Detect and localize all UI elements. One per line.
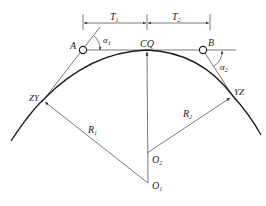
label-alpha2: α2	[220, 62, 228, 73]
angle-alpha1-arc	[94, 36, 100, 50]
radius-r2	[147, 98, 230, 153]
label-a: A	[69, 40, 77, 51]
label-o2: O2	[152, 154, 162, 166]
radius-r1	[45, 102, 148, 183]
label-t1: T1	[110, 11, 119, 23]
label-t2: T2	[172, 11, 181, 23]
label-r1: R1	[87, 124, 97, 136]
label-o1: O1	[152, 180, 162, 192]
label-alpha1: α1	[103, 35, 111, 46]
label-zy: ZY	[29, 93, 40, 103]
point-b-marker	[199, 46, 206, 53]
label-cq: CQ	[140, 38, 155, 49]
point-a-marker	[79, 46, 86, 53]
label-b: B	[208, 37, 214, 48]
label-yz: YZ	[234, 87, 245, 97]
radius-to-cq	[147, 52, 148, 183]
label-r2: R2	[182, 108, 192, 120]
compound-curve-diagram: T1 T2 A B CQ α1 α2 ZY YZ R1 R2 O2 O1	[0, 0, 266, 206]
